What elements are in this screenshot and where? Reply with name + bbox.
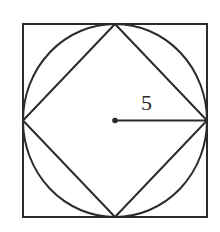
radius-label: 5	[141, 90, 152, 115]
geometry-diagram: 5	[0, 0, 220, 232]
center-point	[112, 118, 118, 124]
